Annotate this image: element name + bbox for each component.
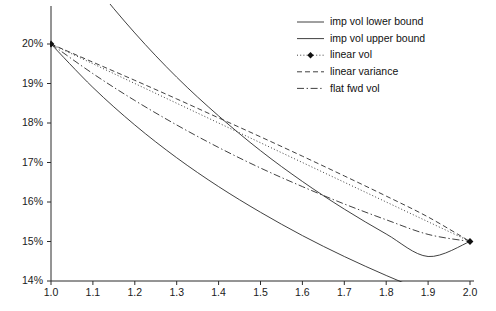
legend-label-linear-vol: linear vol <box>330 48 372 60</box>
legend-label-imp-vol-upper-bound: imp vol upper bound <box>330 32 425 44</box>
x-tick-label: 2.0 <box>463 286 478 298</box>
y-tick-label: 14% <box>22 274 43 286</box>
y-tick-label: 20% <box>22 37 43 49</box>
x-tick-label: 1.6 <box>295 286 310 298</box>
data-point-marker <box>467 238 474 245</box>
x-tick-label: 1.7 <box>337 286 352 298</box>
x-tick-label: 1.9 <box>421 286 436 298</box>
series-group <box>48 0 474 309</box>
x-tick-label: 1.3 <box>169 286 184 298</box>
x-tick-label: 1.1 <box>86 286 101 298</box>
chart-canvas: 14%15%16%17%18%19%20%1.01.11.21.31.41.51… <box>0 0 496 311</box>
y-tick-label: 15% <box>22 235 43 247</box>
x-tick-label: 1.0 <box>44 286 59 298</box>
x-tick-label: 1.4 <box>211 286 226 298</box>
implied-vol-chart: 14%15%16%17%18%19%20%1.01.11.21.31.41.51… <box>0 0 496 311</box>
legend-label-flat-fwd-vol: flat fwd vol <box>330 82 380 94</box>
x-tick-label: 1.8 <box>379 286 394 298</box>
x-tick-label: 1.5 <box>253 286 268 298</box>
y-tick-label: 19% <box>22 77 43 89</box>
y-tick-label: 18% <box>22 116 43 128</box>
x-tick-label: 1.2 <box>127 286 142 298</box>
legend-label-linear-variance: linear variance <box>330 65 398 77</box>
legend-label-imp-vol-lower-bound: imp vol lower bound <box>330 15 424 27</box>
legend-marker-diamond-icon <box>307 52 313 58</box>
y-tick-label: 17% <box>22 156 43 168</box>
series-line-imp-vol-lower-bound <box>51 44 470 309</box>
y-tick-label: 16% <box>22 195 43 207</box>
